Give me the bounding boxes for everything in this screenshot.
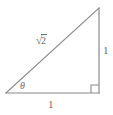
triangle-drawing bbox=[0, 0, 113, 115]
geometry-figure: √2 1 1 θ bbox=[0, 0, 113, 115]
hypotenuse-label: √2 bbox=[36, 35, 47, 46]
horizontal-leg-label: 1 bbox=[48, 99, 54, 110]
right-angle-square-icon bbox=[91, 85, 99, 93]
radicand-value: 2 bbox=[41, 34, 47, 46]
vertical-leg-label: 1 bbox=[103, 45, 109, 56]
angle-theta-label: θ bbox=[20, 81, 25, 91]
